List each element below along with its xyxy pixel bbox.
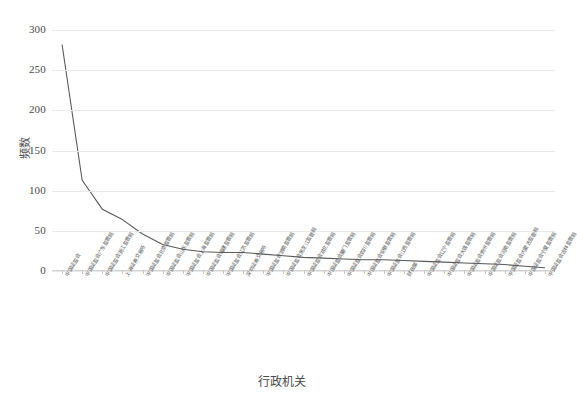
y-tick-label: 300 (6, 24, 46, 35)
y-tick-label: 250 (6, 64, 46, 75)
y-tick-label: 100 (6, 185, 46, 196)
y-tick-label: 50 (6, 225, 46, 236)
y-tick-label: 200 (6, 104, 46, 115)
y-axis-ticks: 050100150200250300 (0, 0, 46, 280)
x-axis-title: 行政机关 (0, 372, 563, 389)
y-tick-label: 0 (6, 265, 46, 276)
gridline (52, 30, 555, 31)
y-tick-label: 150 (6, 145, 46, 156)
x-axis-category-labels: 中国证监会中国证监会广东监管局中国证监会浙江监管局上海证券交易所中国证监会北京监… (52, 274, 555, 369)
gridline (52, 151, 555, 152)
gridline (52, 70, 555, 71)
gridline (52, 110, 555, 111)
gridline (52, 191, 555, 192)
